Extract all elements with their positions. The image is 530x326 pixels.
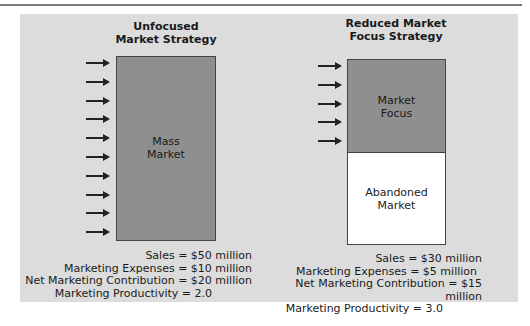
abandoned-market-label: Abandoned Market — [348, 186, 445, 212]
productivity-stat: Marketing Productivity = 2.0 — [20, 288, 252, 301]
title-line: Unfocused — [110, 20, 222, 33]
arrow-icon — [318, 118, 342, 126]
market-focus-label: Market Focus — [348, 94, 445, 120]
arrow-icon — [318, 81, 342, 89]
market-focus-box: Market Focus — [347, 59, 446, 153]
arrow-icon — [318, 137, 342, 145]
arrow-icon — [86, 134, 110, 142]
arrow-icon — [86, 209, 110, 217]
right-stats: Sales = $30 million Marketing Expenses =… — [260, 253, 482, 316]
arrow-icon — [86, 78, 110, 86]
mass-market-box: Mass Market — [116, 56, 216, 241]
unfocused-title: Unfocused Market Strategy — [110, 20, 222, 46]
arrow-icon — [86, 153, 110, 161]
productivity-stat: Marketing Productivity = 3.0 — [260, 303, 482, 316]
label-line: Market — [348, 94, 445, 107]
mass-market-label: Mass Market — [117, 135, 215, 161]
arrow-icon — [86, 115, 110, 123]
reduced-focus-title: Reduced Market Focus Strategy — [340, 17, 452, 43]
arrow-icon — [318, 62, 342, 70]
sales-stat: Sales = $30 million — [260, 253, 482, 266]
arrow-icon — [86, 97, 110, 105]
label-line: Abandoned — [348, 186, 445, 199]
title-line: Market Strategy — [110, 33, 222, 46]
sales-stat: Sales = $50 million — [20, 250, 252, 263]
arrow-icon — [318, 100, 342, 108]
label-line: Market — [348, 199, 445, 212]
top-rule — [0, 4, 522, 6]
net-contribution-stat: Net Marketing Contribution = $20 million — [20, 275, 252, 288]
arrow-icon — [86, 191, 110, 199]
title-line: Focus Strategy — [340, 30, 452, 43]
label-line: Focus — [348, 107, 445, 120]
label-line: Mass — [117, 135, 215, 148]
arrow-icon — [86, 172, 110, 180]
net-contribution-stat: Net Marketing Contribution = $15 million — [260, 278, 482, 303]
abandoned-market-box: Abandoned Market — [347, 152, 446, 245]
arrow-icon — [86, 59, 110, 67]
left-stats: Sales = $50 million Marketing Expenses =… — [20, 250, 252, 300]
arrow-icon — [86, 228, 110, 236]
label-line: Market — [117, 148, 215, 161]
title-line: Reduced Market — [340, 17, 452, 30]
